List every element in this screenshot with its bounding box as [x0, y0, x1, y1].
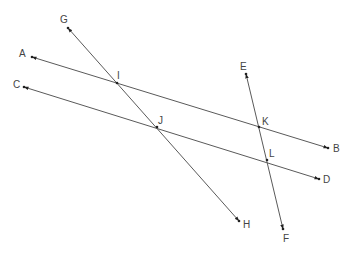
label-b: B	[333, 143, 340, 154]
point-c	[23, 86, 26, 89]
point-a	[31, 56, 34, 59]
label-l: L	[269, 148, 275, 159]
label-k: K	[262, 116, 269, 127]
point-b	[327, 147, 330, 150]
line-ab	[32, 57, 328, 148]
point-h	[238, 220, 241, 223]
label-h: H	[243, 219, 250, 230]
point-d	[318, 178, 321, 181]
label-a: A	[19, 48, 26, 59]
label-g: G	[60, 14, 68, 25]
point-f	[282, 228, 285, 231]
label-c: C	[13, 79, 20, 90]
point-k	[258, 126, 261, 129]
label-e: E	[240, 61, 247, 72]
label-i: I	[117, 70, 120, 81]
line-cd	[24, 87, 319, 179]
points-layer	[23, 27, 330, 231]
line-gh	[68, 28, 239, 221]
lines-layer	[24, 28, 328, 229]
point-j	[156, 126, 159, 129]
point-g	[67, 27, 70, 30]
point-i	[116, 82, 119, 85]
label-d: D	[323, 174, 330, 185]
point-l	[266, 159, 269, 162]
label-f: F	[283, 233, 289, 244]
label-j: J	[158, 115, 163, 126]
point-e	[245, 73, 248, 76]
line-ef	[246, 74, 283, 229]
labels-layer: ABCDEFGHIJKL	[13, 14, 340, 244]
geometry-diagram: ABCDEFGHIJKL	[0, 0, 354, 254]
